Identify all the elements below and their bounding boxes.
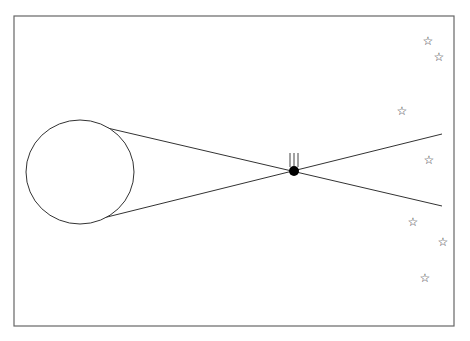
small-body-dot: [289, 166, 299, 176]
star-icon: ☆: [420, 272, 431, 284]
tangent-line-lower: [103, 134, 442, 218]
large-body-circle: [26, 120, 134, 224]
star-icon: ☆: [397, 105, 408, 117]
tangent-line-upper: [103, 127, 442, 206]
star-icon: ☆: [408, 216, 419, 228]
star-icon: ☆: [423, 35, 434, 47]
star-icon: ☆: [424, 154, 435, 166]
star-icon: ☆: [438, 236, 449, 248]
diagram-canvas: [0, 0, 470, 341]
star-icon: ☆: [434, 51, 445, 63]
